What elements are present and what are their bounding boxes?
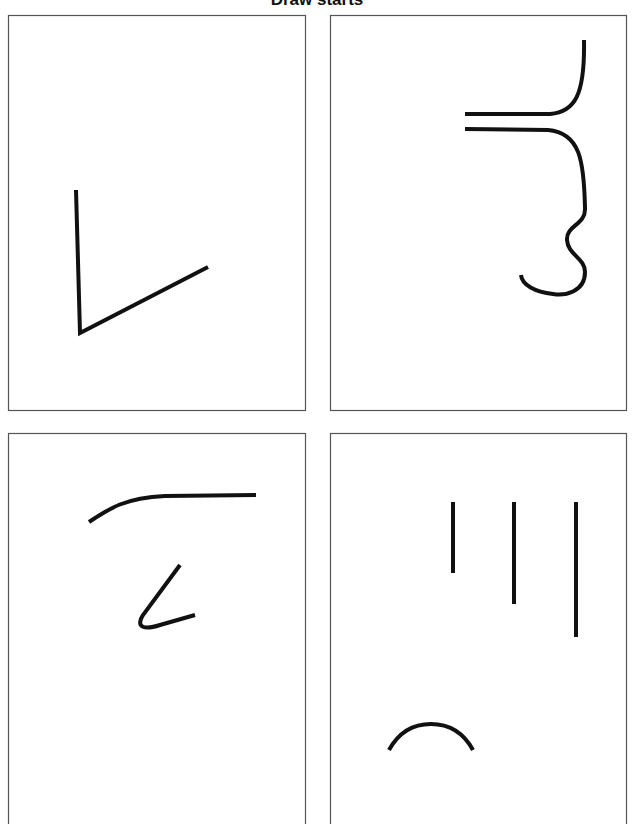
panel-border bbox=[331, 434, 627, 824]
panel-top-left bbox=[9, 16, 306, 411]
panel-border bbox=[9, 434, 306, 824]
panel-bottom-right bbox=[331, 434, 627, 824]
panels-canvas bbox=[0, 0, 634, 824]
panel-bottom-left bbox=[9, 434, 306, 824]
panel-border bbox=[9, 16, 306, 411]
panel-top-right bbox=[331, 16, 627, 411]
